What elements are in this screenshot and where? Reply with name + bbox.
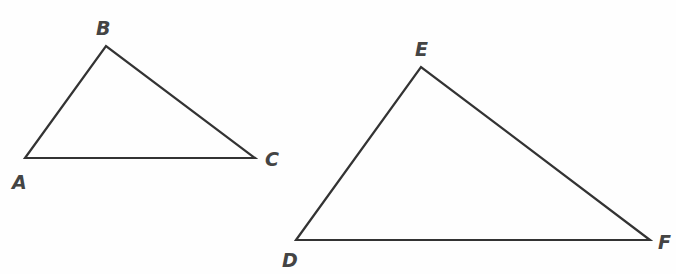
diagram-canvas: A B C D E F	[0, 0, 676, 274]
vertex-label-c: C	[265, 150, 279, 169]
vertex-label-f: F	[658, 233, 671, 252]
vertex-label-d: D	[282, 251, 298, 270]
triangle-abc	[25, 46, 255, 158]
vertex-label-a: A	[12, 173, 27, 192]
triangle-def	[296, 67, 650, 240]
vertex-label-b: B	[96, 19, 110, 38]
triangles-drawing	[0, 0, 676, 274]
vertex-label-e: E	[415, 40, 428, 59]
